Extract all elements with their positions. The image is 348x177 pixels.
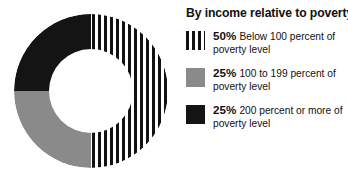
legend-item-text: 50% Below 100 percent of poverty level (213, 30, 346, 56)
donut-chart-svg (14, 14, 168, 168)
legend-title: By income relative to poverty (186, 6, 346, 20)
legend-item-percent: 25% (213, 66, 239, 79)
black-swatch-icon (186, 105, 205, 124)
legend-item-text: 25% 200 percent or more of poverty level (213, 104, 346, 130)
legend: By income relative to poverty 50% Below … (186, 6, 346, 131)
poverty-income-donut-figure: By income relative to poverty 50% Below … (0, 0, 348, 177)
legend-item: 25% 100 to 199 percent of poverty level (186, 67, 346, 93)
donut-slice-100-to-199-percent (14, 91, 91, 168)
legend-item-text: 25% 100 to 199 percent of poverty level (213, 67, 346, 93)
donut-chart (14, 14, 168, 168)
legend-item-percent: 25% (213, 103, 239, 116)
legend-item-percent: 50% (213, 29, 239, 42)
legend-item: 50% Below 100 percent of poverty level (186, 30, 346, 56)
legend-item: 25% 200 percent or more of poverty level (186, 104, 346, 130)
gray-swatch-icon (186, 68, 205, 87)
donut-slice-below-100-percent (91, 14, 168, 168)
donut-slice-200-percent-or-more (14, 14, 91, 91)
striped-swatch-icon (186, 31, 205, 50)
